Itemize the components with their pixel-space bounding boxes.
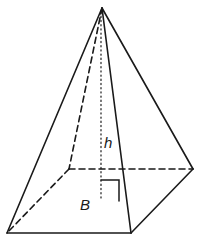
- edge-apex-front-right: [102, 8, 131, 233]
- edge-apex-back-right: [102, 8, 193, 169]
- edge-hidden-base-left: [7, 169, 69, 233]
- base-label: B: [80, 196, 90, 213]
- height-label: h: [104, 134, 112, 151]
- pyramid-diagram: h B: [0, 0, 198, 237]
- right-angle-marker: [101, 180, 119, 201]
- pyramid-figure: h B: [0, 0, 198, 237]
- edge-base-right: [131, 169, 193, 233]
- edge-hidden-apex-back-left: [69, 8, 102, 169]
